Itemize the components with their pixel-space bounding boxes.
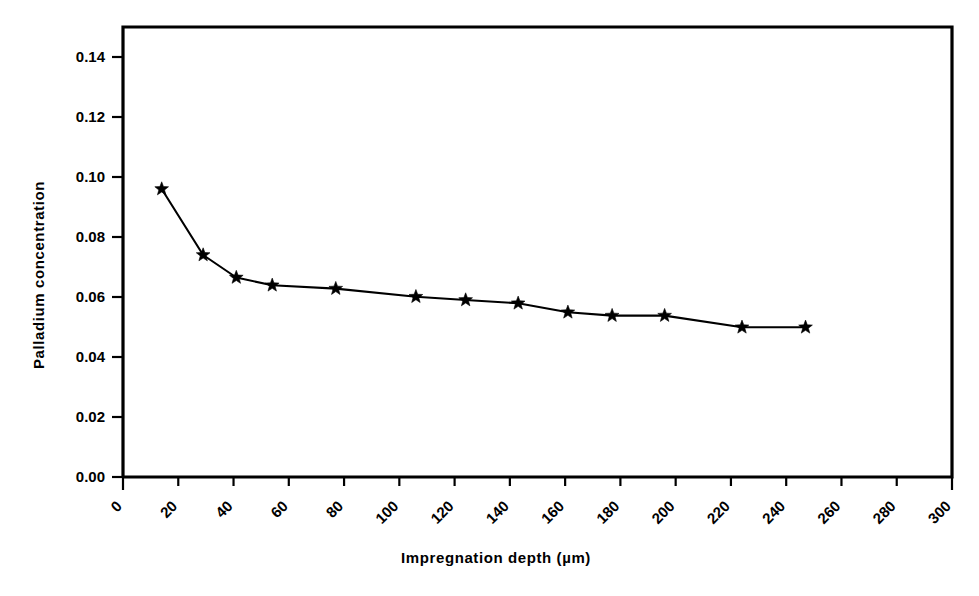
y-tick-label: 0.02	[76, 408, 105, 425]
y-tick-label: 0.12	[76, 108, 105, 125]
chart-figure: 0204060801001201401601802002202402602803…	[0, 0, 979, 596]
y-tick-label: 0.08	[76, 228, 105, 245]
y-tick-label: 0.06	[76, 288, 105, 305]
x-axis-title: Impregnation depth (µm)	[401, 549, 591, 566]
y-tick-label: 0.04	[76, 348, 106, 365]
y-tick-label: 0.14	[76, 48, 106, 65]
y-axis-title: Palladium concentration	[30, 181, 47, 369]
y-tick-label: 0.10	[76, 168, 105, 185]
y-tick-label: 0.00	[76, 468, 105, 485]
palladium-concentration-line-chart: 0204060801001201401601802002202402602803…	[0, 0, 979, 596]
